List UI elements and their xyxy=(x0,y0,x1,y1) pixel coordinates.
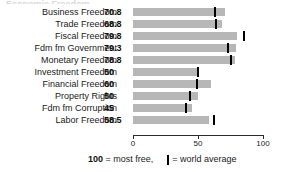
legend-most-free-value: 100 xyxy=(88,152,103,166)
bar-track xyxy=(133,54,263,66)
chart-legend: 100 = most free, = world average xyxy=(88,152,237,166)
cut-off-chart-title: Economic Freedom xyxy=(6,0,121,4)
chart-row: Fdm fm Government79.3 xyxy=(0,42,281,54)
value-bar xyxy=(133,20,222,28)
chart-row: Business Freedom70.8 xyxy=(0,6,281,18)
value-label: 45 xyxy=(104,102,128,114)
value-bar xyxy=(133,44,236,52)
bar-track xyxy=(133,30,263,42)
chart-row: Monetary Freedom78.8 xyxy=(0,54,281,66)
bar-track xyxy=(133,114,263,126)
world-average-tick-icon xyxy=(230,55,232,65)
value-label: 60 xyxy=(104,78,128,90)
world-average-tick-icon xyxy=(243,31,245,41)
world-average-tick-icon xyxy=(189,91,191,101)
value-bar xyxy=(133,116,209,124)
value-label: 50 xyxy=(104,90,128,102)
world-average-tick-icon xyxy=(227,43,229,53)
chart-rows: Business Freedom70.8Trade Freedom68.8Fis… xyxy=(0,6,281,126)
value-label: 79.3 xyxy=(104,42,128,54)
chart-row: Trade Freedom68.8 xyxy=(0,18,281,30)
world-average-tick-icon xyxy=(196,79,198,89)
chart-row: Fdm fm Corruption45 xyxy=(0,102,281,114)
world-average-tick-icon xyxy=(213,115,215,125)
value-label: 50 xyxy=(104,66,128,78)
chart-row: Financial Freedom60 xyxy=(0,78,281,90)
world-average-tick-icon xyxy=(214,7,216,17)
world-average-tick-icon xyxy=(167,155,169,165)
legend-most-free-text: = most free, xyxy=(106,152,154,166)
bar-track xyxy=(133,42,263,54)
value-bar xyxy=(133,80,211,88)
chart-row: Property Rights50 xyxy=(0,90,281,102)
bar-track xyxy=(133,102,263,114)
value-bar xyxy=(133,68,198,76)
bar-track xyxy=(133,66,263,78)
value-label: 70.8 xyxy=(104,6,128,18)
x-axis-tick-label: 50 xyxy=(185,139,211,149)
economic-freedom-bar-chart: Economic Freedom Business Freedom70.8Tra… xyxy=(0,0,281,172)
value-bar xyxy=(133,56,235,64)
chart-row: Fiscal Freedom79.8 xyxy=(0,30,281,42)
world-average-tick-icon xyxy=(185,103,187,113)
value-bar xyxy=(133,104,192,112)
bar-track xyxy=(133,6,263,18)
world-average-tick-icon xyxy=(215,19,217,29)
value-bar xyxy=(133,32,237,40)
value-label: 68.8 xyxy=(104,18,128,30)
chart-row: Investment Freedom50 xyxy=(0,66,281,78)
legend-world-average-text: = world average xyxy=(172,152,236,166)
chart-row: Labor Freedom58.5 xyxy=(0,114,281,126)
value-label: 58.5 xyxy=(104,114,128,126)
world-average-tick-icon xyxy=(197,67,199,77)
bar-track xyxy=(133,90,263,102)
x-axis-tick-label: 0 xyxy=(120,139,146,149)
value-label: 78.8 xyxy=(104,54,128,66)
value-label: 79.8 xyxy=(104,30,128,42)
bar-track xyxy=(133,78,263,90)
bar-track xyxy=(133,18,263,30)
value-bar xyxy=(133,8,225,16)
x-axis-tick-label: 100 xyxy=(250,139,276,149)
